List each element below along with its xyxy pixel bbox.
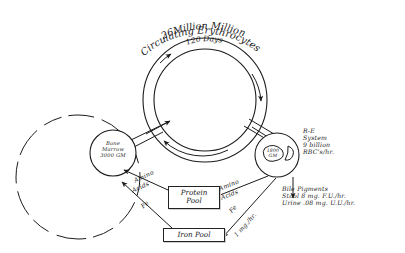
- circulation-ring: [143, 38, 267, 162]
- erythrocyte-lifecycle-diagram: 26Million Million Circulating Erythrocyt…: [0, 0, 405, 253]
- channel-marrow-to-ring: [131, 121, 170, 147]
- arrow-re-organ-to-iron-pool: [223, 178, 276, 237]
- re-organ-node: [255, 133, 299, 177]
- diagram-canvas: 26Million Million Circulating Erythrocyt…: [0, 0, 405, 253]
- bone-marrow-node: [90, 130, 136, 176]
- arrow-re-organ-to-protein-pool: [215, 176, 268, 197]
- arrow-protein-pool-to-marrow: [124, 170, 168, 190]
